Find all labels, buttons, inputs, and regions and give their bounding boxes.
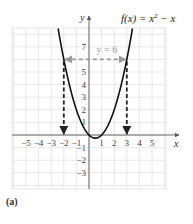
y-tick-label: −3	[76, 168, 86, 178]
x-tick-label: 5	[150, 138, 155, 148]
panel-label: (a)	[6, 196, 18, 207]
x-axis-label: x	[173, 138, 179, 149]
function-curve	[58, 29, 132, 139]
function-label: f(x) = x2 − x	[121, 12, 176, 25]
x-tick-label: −4	[34, 138, 44, 148]
x-tick-label: 3	[125, 138, 130, 148]
labels: yxf(x) = x2 − xy = 6	[79, 12, 179, 149]
y-axis-label: y	[79, 12, 85, 23]
y-tick-label: 5	[82, 67, 87, 77]
parabola-curve	[58, 29, 132, 139]
figure: −5−4−3−2−112345−3−2−1123457 yxf(x) = x2 …	[0, 0, 193, 224]
y-tick-label: −1	[76, 143, 86, 153]
x-tick-label: −5	[21, 138, 31, 148]
y-tick-label: −2	[76, 155, 86, 165]
x-tick-label: −3	[46, 138, 56, 148]
y-tick-label: 2	[82, 105, 87, 115]
x-tick-label: −2	[59, 138, 69, 148]
parabola-chart: −5−4−3−2−112345−3−2−1123457 yxf(x) = x2 …	[0, 0, 193, 224]
y-equals-6-label: y = 6	[97, 44, 118, 55]
y-tick-label: 3	[82, 92, 87, 102]
x-tick-label: 2	[112, 138, 117, 148]
y-tick-label: 7	[82, 42, 87, 52]
y-tick-label: 4	[82, 80, 87, 90]
x-tick-label: 1	[99, 138, 104, 148]
x-tick-label: 4	[137, 138, 142, 148]
axes	[12, 16, 179, 189]
